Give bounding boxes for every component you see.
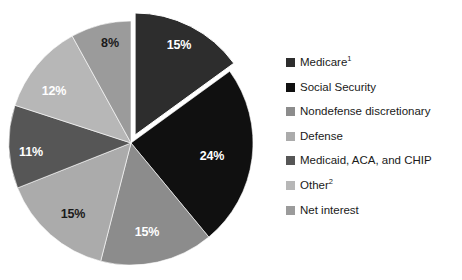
- pie-slice-data-label: 15%: [167, 38, 192, 52]
- legend-footnote-marker: 1: [347, 54, 351, 63]
- legend-item[interactable]: Other2: [286, 179, 462, 204]
- pie-slice-data-label: 24%: [200, 149, 225, 163]
- legend-footnote-marker: 2: [329, 177, 333, 186]
- chart-legend: Medicare1Social SecurityNondefense discr…: [286, 56, 462, 228]
- legend-swatch-icon: [286, 132, 295, 141]
- legend-item-label: Defense: [300, 130, 343, 143]
- legend-item[interactable]: Medicare1: [286, 56, 462, 81]
- pie-slice-data-label: 15%: [135, 225, 160, 239]
- legend-swatch-icon: [286, 107, 295, 116]
- pie-slice-group: [9, 13, 253, 265]
- legend-item-label: Net interest: [300, 204, 359, 217]
- legend-item-label: Social Security: [300, 81, 376, 94]
- legend-item-label: Medicaid, ACA, and CHIP: [300, 154, 432, 167]
- pie-slice-data-label: 15%: [61, 207, 86, 221]
- legend-item-label: Other2: [300, 179, 333, 192]
- pie-slice-data-label: 8%: [101, 36, 119, 50]
- legend-swatch-icon: [286, 156, 295, 165]
- legend-item[interactable]: Social Security: [286, 81, 462, 106]
- legend-swatch-icon: [286, 206, 295, 215]
- pie-plot-area: 15%24%15%15%11%12%8%: [0, 0, 272, 280]
- legend-swatch-icon: [286, 58, 295, 67]
- pie-slice-data-label: 11%: [19, 145, 43, 159]
- pie-svg: 15%24%15%15%11%12%8%: [0, 0, 272, 280]
- pie-slice-data-label: 12%: [42, 84, 67, 98]
- legend-swatch-icon: [286, 83, 295, 92]
- legend-item[interactable]: Medicaid, ACA, and CHIP: [286, 154, 462, 179]
- legend-item-label: Nondefense discretionary: [300, 105, 430, 118]
- legend-item[interactable]: Defense: [286, 130, 462, 155]
- legend-swatch-icon: [286, 181, 295, 190]
- legend-item-label: Medicare1: [300, 56, 351, 69]
- legend-item[interactable]: Net interest: [286, 204, 462, 229]
- legend-item[interactable]: Nondefense discretionary: [286, 105, 462, 130]
- pie-chart-figure: 15%24%15%15%11%12%8% Medicare1Social Sec…: [0, 0, 462, 280]
